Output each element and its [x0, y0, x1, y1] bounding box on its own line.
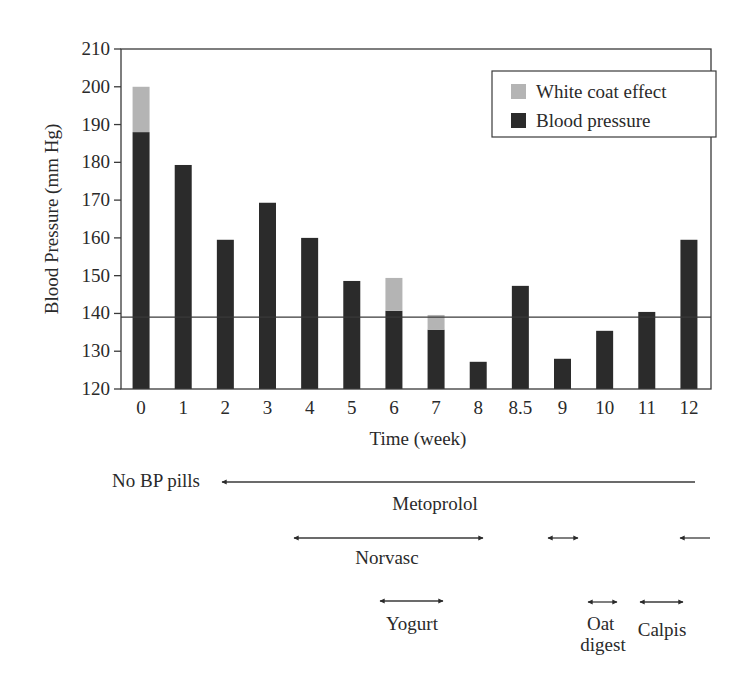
- legend-swatch-blood-pressure: [511, 113, 526, 128]
- y-axis: 120130140150160170180190200210: [82, 38, 122, 399]
- x-axis: 0123456788.59101112: [136, 397, 698, 418]
- bar-blood-pressure-week-5: [343, 281, 360, 389]
- x-tick-label: 11: [638, 397, 656, 418]
- annotation-oat-digest: Oat digest: [580, 613, 626, 655]
- x-tick-label: 3: [263, 397, 273, 418]
- bar-blood-pressure-week-8: [470, 362, 487, 389]
- y-tick-label: 170: [82, 189, 111, 210]
- x-axis-title: Time (week): [370, 428, 467, 450]
- bar-blood-pressure-week-3: [259, 203, 276, 389]
- bar-blood-pressure-week-10: [596, 331, 613, 389]
- y-tick-label: 200: [82, 76, 111, 97]
- y-tick-label: 130: [82, 340, 111, 361]
- medication-timeline: No BP pills Metoprolol Norvasc Yogurt Oa…: [112, 470, 710, 655]
- legend-label-blood-pressure: Blood pressure: [536, 110, 651, 131]
- bar-blood-pressure-week-7: [428, 330, 445, 389]
- x-tick-label: 1: [178, 397, 188, 418]
- annotation-no-bp-pills: No BP pills: [112, 470, 200, 491]
- bar-blood-pressure-week-0: [133, 132, 150, 389]
- x-tick-label: 8: [473, 397, 483, 418]
- bar-blood-pressure-week-4: [301, 238, 318, 389]
- y-tick-label: 160: [82, 227, 111, 248]
- legend: White coat effect Blood pressure: [492, 71, 716, 137]
- x-tick-label: 8.5: [508, 397, 532, 418]
- y-tick-label: 120: [82, 378, 111, 399]
- annotation-metoprolol: Metoprolol: [392, 493, 478, 514]
- x-tick-label: 7: [431, 397, 441, 418]
- x-tick-label: 12: [679, 397, 698, 418]
- bar-blood-pressure-week-6: [385, 311, 402, 389]
- bar-blood-pressure-week-1: [175, 165, 192, 389]
- annotation-calpis: Calpis: [638, 619, 687, 640]
- bar-white-coat-week-0: [133, 87, 150, 132]
- x-tick-label: 9: [558, 397, 568, 418]
- bar-blood-pressure-week-12: [680, 240, 697, 389]
- y-tick-label: 180: [82, 151, 111, 172]
- x-tick-label: 6: [389, 397, 399, 418]
- bar-blood-pressure-week-8.5: [512, 286, 529, 389]
- y-tick-label: 210: [82, 38, 111, 59]
- x-tick-label: 0: [136, 397, 146, 418]
- bar-blood-pressure-week-9: [554, 359, 571, 389]
- annotation-norvasc: Norvasc: [355, 547, 418, 568]
- bar-chart: 120130140150160170180190200210 012345678…: [0, 0, 747, 681]
- y-tick-label: 190: [82, 114, 111, 135]
- annotation-yogurt: Yogurt: [386, 613, 439, 634]
- y-axis-title: Blood Pressure (mm Hg): [41, 124, 63, 315]
- y-tick-label: 150: [82, 265, 111, 286]
- bar-blood-pressure-week-2: [217, 240, 234, 389]
- bar-blood-pressure-week-11: [638, 312, 655, 389]
- bar-white-coat-week-6: [385, 278, 402, 311]
- legend-swatch-white-coat: [511, 84, 526, 99]
- x-tick-label: 4: [305, 397, 315, 418]
- x-tick-label: 5: [347, 397, 357, 418]
- x-tick-label: 10: [595, 397, 614, 418]
- legend-label-white-coat: White coat effect: [536, 81, 667, 102]
- x-tick-label: 2: [221, 397, 231, 418]
- y-tick-label: 140: [82, 302, 111, 323]
